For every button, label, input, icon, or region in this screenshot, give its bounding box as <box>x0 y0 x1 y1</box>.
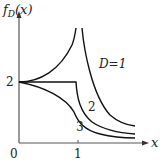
x-axis-label: x <box>151 135 159 150</box>
series-label-d1: D=1 <box>98 57 126 71</box>
origin-label: 0 <box>10 147 18 161</box>
y-tick-label-2: 2 <box>6 75 14 89</box>
curve-d1-left <box>19 28 76 82</box>
y-axis-label: fD(x) <box>2 2 33 19</box>
series-label-d2: 2 <box>88 100 96 114</box>
series-label-d3: 3 <box>76 120 84 134</box>
x-tick-label-1: 1 <box>74 147 82 161</box>
chart: fD(x) x 0 1 2 D=1 2 3 <box>0 0 163 163</box>
x-axis-arrow-icon <box>142 141 149 146</box>
